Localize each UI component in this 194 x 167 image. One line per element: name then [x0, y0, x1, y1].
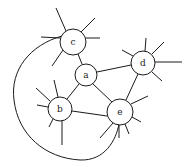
node-b: b: [48, 97, 72, 121]
node-a: a: [75, 64, 97, 86]
node-e: e: [107, 99, 133, 125]
edge-d-e: [126, 74, 138, 100]
node-label-c: c: [70, 37, 75, 47]
edge-a-d: [97, 65, 131, 72]
edge-c-a: [78, 54, 82, 64]
edge-a-b: [67, 84, 79, 99]
node-label-b: b: [57, 104, 63, 114]
edge-c-e-curved: [13, 36, 119, 160]
graph-diagram: a b c d e: [0, 0, 194, 167]
node-c: c: [60, 29, 86, 55]
node-label-d: d: [140, 58, 146, 68]
node-label-a: a: [83, 70, 89, 80]
graph-svg: a b c d e: [0, 0, 194, 167]
edge-a-e: [93, 84, 112, 102]
node-d: d: [131, 51, 155, 75]
edge-b-e: [72, 111, 107, 116]
node-label-e: e: [117, 107, 122, 117]
